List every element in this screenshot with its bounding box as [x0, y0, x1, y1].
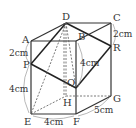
- label-C: C: [113, 12, 121, 23]
- dim-PE: 4cm: [9, 84, 29, 94]
- label-Q: Q: [67, 77, 75, 88]
- label-H: H: [63, 97, 72, 108]
- label-A: A: [21, 34, 30, 45]
- label-G: G: [113, 93, 121, 104]
- label-B: B: [78, 31, 85, 42]
- dim-FG: 5cm: [94, 105, 114, 115]
- prism-diagram: A B C D E F G H P Q R 2cm 4cm 4cm 5cm 2c…: [0, 0, 136, 128]
- label-D: D: [62, 11, 70, 22]
- label-E: E: [24, 116, 31, 127]
- label-R: R: [113, 42, 121, 53]
- dim-EF: 4cm: [44, 117, 64, 127]
- dim-BQ: 4cm: [80, 58, 100, 68]
- dim-CR: 2cm: [113, 29, 133, 39]
- label-F: F: [73, 116, 80, 127]
- dim-AP: 2cm: [9, 48, 29, 58]
- label-P: P: [23, 59, 30, 70]
